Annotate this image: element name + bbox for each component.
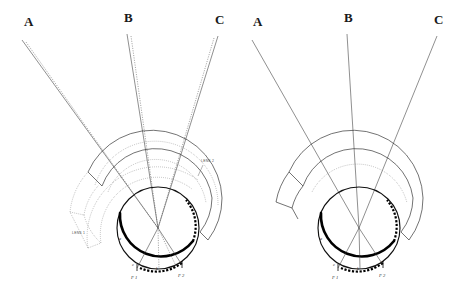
ray-label-a-right: A bbox=[253, 14, 263, 29]
focal-construction-lines-right bbox=[338, 228, 383, 271]
lens1-radial-a bbox=[70, 212, 84, 215]
focal-line-center bbox=[158, 228, 159, 269]
focal-line-3 bbox=[158, 228, 176, 266]
ray-label-c-right: C bbox=[434, 12, 443, 27]
lens-radial-right bbox=[276, 202, 292, 208]
lens-end-cap-left-right bbox=[289, 172, 303, 186]
panel-left: A B C LENS 2 LENS 1 F 1 F 2 c b d a bbox=[0, 0, 235, 292]
ray-b-solid-right bbox=[347, 34, 359, 228]
lens-label-1: LENS 1 bbox=[72, 231, 85, 235]
lens1-arc-lower bbox=[84, 215, 101, 243]
lens-tail-cap-right bbox=[401, 232, 409, 240]
ray-a-solid bbox=[22, 40, 158, 228]
panel-left-drawing: A B C LENS 2 LENS 1 F 1 F 2 c b d a bbox=[0, 0, 235, 292]
focus-label-f2-right: F 2 bbox=[378, 273, 386, 278]
ray-label-a: A bbox=[24, 14, 34, 29]
lens-radial-2-right bbox=[292, 208, 298, 219]
ray-a-solid-right bbox=[252, 40, 359, 228]
lens-sector-divider-right bbox=[276, 172, 289, 202]
lens-arc-lower-right bbox=[292, 186, 303, 208]
lens2-tail-inner bbox=[200, 198, 212, 232]
focal-construction-lines bbox=[137, 228, 182, 271]
focus-label-f1-right: F 1 bbox=[331, 275, 338, 280]
retina-mark-b-right: b bbox=[357, 266, 359, 271]
lens-solid-right bbox=[276, 130, 423, 240]
retina-arc-dashed bbox=[186, 200, 196, 241]
focal-line-1-right bbox=[338, 228, 359, 268]
lens2-tail-cap bbox=[200, 232, 208, 240]
ray-label-b: B bbox=[124, 10, 133, 25]
lens2-outer-arc bbox=[88, 130, 222, 198]
ray-label-b-right: B bbox=[344, 10, 353, 25]
lens-2-leader-line bbox=[198, 165, 203, 176]
retina-arc-right bbox=[321, 213, 394, 256]
panel-right-drawing: A B C F 1 F 2 c b d a bbox=[234, 0, 469, 292]
ray-a-dotted bbox=[26, 42, 158, 228]
lens-inner-arc-right bbox=[303, 149, 413, 198]
lens1-sector-divider bbox=[70, 172, 88, 212]
retina-mark-b: b bbox=[156, 266, 158, 271]
focal-line-1 bbox=[137, 228, 158, 268]
lens1-sector-divider-inner bbox=[84, 185, 99, 215]
lens1-inner-arc bbox=[100, 177, 192, 243]
lens1-radial-b bbox=[70, 212, 88, 248]
lens-label-2: LENS 2 bbox=[201, 159, 214, 163]
lens2-tail-outer bbox=[208, 198, 222, 240]
ray-diagram-figure: A B C LENS 2 LENS 1 F 1 F 2 c b d a bbox=[0, 0, 469, 292]
panel-right: A B C F 1 F 2 c b d a bbox=[234, 0, 469, 292]
focus-label-f1: F 1 bbox=[130, 275, 137, 280]
lens2-end-cap-left bbox=[88, 172, 102, 186]
focus-label-f2: F 2 bbox=[177, 273, 185, 278]
mid-arc-dotted-2 bbox=[108, 159, 206, 203]
retina-mark-c: c bbox=[132, 262, 134, 267]
lens-tail-inner-right bbox=[401, 198, 413, 232]
retina-mark-a: a bbox=[119, 236, 121, 241]
ray-group-solid bbox=[22, 34, 218, 228]
lens-tail-outer-right bbox=[409, 198, 423, 240]
ray-c-solid-right bbox=[359, 36, 437, 228]
lens1-outer-arc bbox=[87, 167, 198, 248]
focal-line-center-right bbox=[359, 228, 360, 269]
retina-mark-a-right: a bbox=[320, 236, 322, 241]
lens1-cap-bottom bbox=[88, 243, 101, 248]
ray-group-dotted bbox=[26, 36, 214, 228]
retina-mark-c-right: c bbox=[333, 262, 335, 267]
lens-1-dotted bbox=[70, 167, 198, 248]
ray-group-solid-right bbox=[252, 34, 437, 228]
ray-label-c: C bbox=[215, 12, 224, 27]
retina-arc-dashed-right bbox=[387, 200, 397, 241]
